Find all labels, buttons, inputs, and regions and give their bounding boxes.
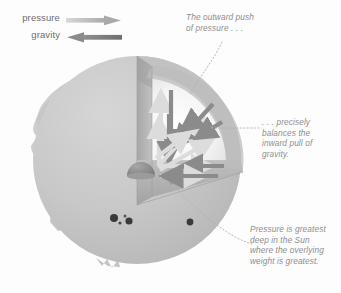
annotation-outward-push: The outward push of pressure . . . — [186, 12, 278, 33]
annotation-pressure-greatest: Pressure is greatest deep in the Sun whe… — [250, 224, 340, 266]
sun-pressure-gravity-figure: pressure gravity — [0, 0, 341, 293]
annotation-balances-gravity: . . . precisely balances the inward pull… — [262, 117, 340, 159]
